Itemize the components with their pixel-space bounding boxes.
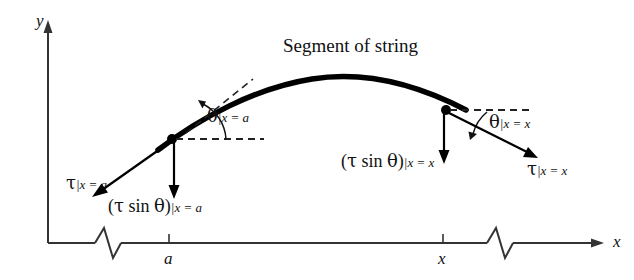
tick-label-x: x xyxy=(438,250,446,267)
diagram-title: Segment of string xyxy=(283,36,418,55)
x-axis-arrowhead xyxy=(591,239,604,248)
theta-left-symbol: θ xyxy=(207,105,218,126)
theta-right-label: θ|x = x xyxy=(489,113,530,131)
x-axis-label: x xyxy=(613,233,621,250)
tau-sin-right-theta: θ xyxy=(387,150,398,171)
tau-left-label: τ|x = a xyxy=(66,174,107,192)
tick-label-a: a xyxy=(164,250,173,267)
theta-right-symbol: θ xyxy=(489,111,500,132)
theta-right-subscript: |x = x xyxy=(500,116,530,131)
left-tension-arrow-shaft xyxy=(102,142,170,190)
tau-sin-left-theta: θ xyxy=(154,195,165,216)
tau-sin-right-tau: τ xyxy=(347,150,357,171)
x-axis-break-left-icon xyxy=(95,228,121,258)
theta-left-subscript: |x = a xyxy=(218,110,249,125)
tau-left-symbol: τ xyxy=(66,172,76,193)
tau-sin-theta-right-label: (τ sin θ)|x = x xyxy=(341,152,434,170)
tau-left-subscript: |x = a xyxy=(76,177,107,192)
y-axis-arrowhead xyxy=(44,20,53,33)
y-axis xyxy=(44,20,53,243)
theta-left-label: θ|x = a xyxy=(207,107,249,125)
right-angle-arc-arrowhead xyxy=(469,132,478,141)
tau-right-label: τ|x = x xyxy=(527,160,567,178)
tau-sin-left-tau: τ xyxy=(114,195,124,216)
x-axis-break-right-icon xyxy=(487,228,513,258)
string-segment-diagram: y x Segment of string a x θ|x = a θ|x = … xyxy=(0,0,634,280)
right-tension-arrowhead xyxy=(523,147,538,158)
tau-right-symbol: τ xyxy=(527,158,537,179)
right-vertical-force-arrowhead xyxy=(439,150,450,164)
x-axis-ticks xyxy=(169,234,443,243)
tau-sin-left-subscript: |x = a xyxy=(171,200,202,215)
tau-right-subscript: |x = x xyxy=(537,163,567,178)
tau-sin-right-sin: sin xyxy=(357,151,387,171)
left-attachment-group xyxy=(92,79,264,199)
y-axis-label: y xyxy=(36,12,44,29)
x-axis xyxy=(48,228,604,258)
tau-sin-theta-left-label: (τ sin θ)|x = a xyxy=(108,197,202,215)
tau-sin-left-sin: sin xyxy=(124,196,154,216)
tau-sin-right-subscript: |x = x xyxy=(404,155,434,170)
